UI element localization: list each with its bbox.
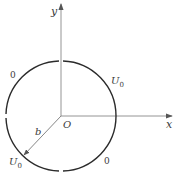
segment-3-label: U0 <box>9 156 22 170</box>
segment-1-label: U0 <box>111 75 124 89</box>
origin-label: O <box>63 119 71 130</box>
diagram: y x O b U0 0 U0 0 <box>0 0 181 184</box>
segment-4-label: 0 <box>104 156 110 166</box>
x-axis-label: x <box>166 118 173 131</box>
segment-quadrant-1 <box>63 61 116 116</box>
segment-quadrant-2 <box>6 61 59 114</box>
radius-label: b <box>35 126 41 137</box>
segment-2-label: 0 <box>10 70 16 80</box>
radius-arrow <box>24 116 61 155</box>
y-axis-label: y <box>50 5 58 18</box>
